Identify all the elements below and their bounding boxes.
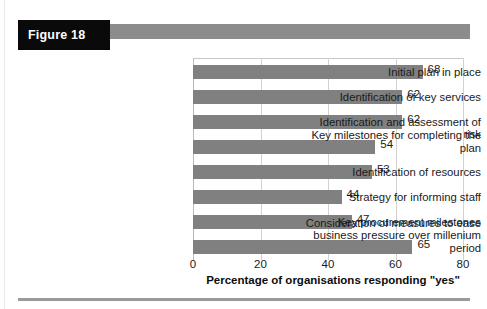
category-label-line: Initial plan in place — [301, 66, 481, 78]
category-label-line: period — [301, 242, 481, 254]
figure-header-rule — [110, 24, 470, 39]
category-label-line: business pressure over millenium — [301, 229, 481, 241]
category-label-line: Strategy for informing staff — [301, 191, 481, 203]
page-bottom-rule — [18, 298, 470, 301]
category-label-line: Identification of resources — [301, 166, 481, 178]
category-label: Identification of resources — [301, 166, 487, 178]
x-axis-ticks: 020406080 — [193, 258, 473, 272]
x-tick-label: 80 — [457, 258, 470, 270]
x-tick-label: 20 — [254, 258, 267, 270]
figure-page: Figure 18 6862625453444765 Initial plan … — [0, 0, 487, 309]
x-tick-label: 0 — [190, 258, 196, 270]
category-label: Consideration of measures to easebusines… — [301, 217, 487, 254]
category-label-line: plan — [301, 142, 481, 154]
figure-number-tag: Figure 18 — [18, 20, 110, 50]
category-label: Identification of key services — [301, 91, 487, 103]
category-label-line: Identification of key services — [301, 91, 481, 103]
x-axis-title: Percentage of organisations responding "… — [193, 274, 473, 286]
bar-chart: 6862625453444765 Initial plan in placeId… — [0, 55, 487, 270]
category-label: Strategy for informing staff — [301, 191, 487, 203]
figure-header: Figure 18 — [18, 20, 470, 50]
category-label: Key milestones for completing theplan — [301, 129, 487, 154]
category-label: Initial plan in place — [301, 66, 487, 78]
category-label-line: Consideration of measures to ease — [301, 217, 481, 229]
x-tick-label: 60 — [389, 258, 402, 270]
x-tick-label: 40 — [322, 258, 335, 270]
category-label-line: Key milestones for completing the — [301, 129, 481, 141]
